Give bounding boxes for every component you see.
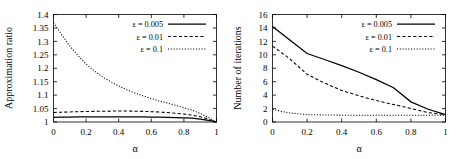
x-tick-labels: 00.20.40.60.81 — [270, 127, 448, 137]
y-tick-label: 1.1 — [37, 90, 48, 100]
data-curves — [54, 23, 217, 122]
y-tick-label: 1.3 — [37, 37, 49, 47]
chart-panel-approximation-ratio: Approximation ratio 11.051.11.151.21.251… — [0, 0, 229, 159]
legend-label-1: ε = 0.005 — [361, 20, 392, 29]
x-tick-labels: 00.20.40.60.81 — [51, 127, 219, 137]
x-tick-label: 0 — [51, 127, 56, 137]
approximation-ratio-svg: Approximation ratio 11.051.11.151.21.251… — [0, 0, 229, 159]
legend: ε = 0.005ε = 0.01ε = 0.1 — [361, 20, 435, 54]
x-tick-label: 0.2 — [80, 127, 91, 137]
y-axis-label: Number of iterations — [232, 26, 243, 109]
x-tick-label: 1 — [214, 127, 219, 137]
x-tick-label: 1 — [443, 127, 448, 137]
number-of-iterations-svg: Number of iterations 0246810121416 00.20… — [229, 0, 458, 159]
y-tick-label: 16 — [259, 10, 269, 20]
y-tick-label: 1.4 — [37, 10, 49, 20]
series-line-3 — [54, 23, 217, 122]
y-tick-label: 1.35 — [33, 23, 49, 33]
y-tick-label: 12 — [259, 37, 268, 47]
data-curves — [273, 27, 446, 116]
legend-label-2: ε = 0.01 — [366, 33, 392, 42]
plot-frame — [54, 15, 217, 123]
y-axis-label-group: Approximation ratio — [3, 27, 14, 109]
y-tick-label: 6 — [263, 77, 268, 87]
series-line-1 — [54, 117, 217, 122]
legend-label-2: ε = 0.01 — [137, 33, 163, 42]
x-tick-label: 0.6 — [371, 127, 383, 137]
y-tick-label: 1.05 — [33, 104, 49, 114]
y-tick-label: 0 — [263, 117, 268, 127]
y-tick-label: 1.25 — [33, 50, 49, 60]
x-tick-label: 0.8 — [405, 127, 417, 137]
y-axis-label-group: Number of iterations — [232, 26, 243, 109]
legend-label-3: ε = 0.1 — [141, 45, 163, 54]
y-tick-label: 1.15 — [33, 77, 49, 87]
y-tick-label: 10 — [259, 50, 269, 60]
legend-label-3: ε = 0.1 — [370, 45, 392, 54]
x-axis-label: α — [356, 143, 362, 154]
x-tick-label: 0.8 — [178, 127, 190, 137]
figure-container: Approximation ratio 11.051.11.151.21.251… — [0, 0, 458, 159]
x-tick-label: 0.4 — [113, 127, 125, 137]
x-tick-label: 0.4 — [336, 127, 348, 137]
x-tick-label: 0 — [270, 127, 275, 137]
legend: ε = 0.005ε = 0.01ε = 0.1 — [132, 20, 206, 54]
legend-label-1: ε = 0.005 — [132, 20, 163, 29]
y-tick-label: 8 — [263, 63, 268, 73]
series-line-1 — [273, 27, 446, 115]
tick-marks — [54, 15, 217, 123]
x-tick-label: 0.2 — [301, 127, 312, 137]
y-tick-label: 2 — [263, 104, 268, 114]
x-tick-label: 0.6 — [146, 127, 158, 137]
chart-panel-number-of-iterations: Number of iterations 0246810121416 00.20… — [229, 0, 458, 159]
y-tick-label: 4 — [263, 90, 268, 100]
y-tick-label: 1.2 — [37, 63, 48, 73]
x-axis-label: α — [132, 143, 138, 154]
y-tick-label: 14 — [259, 23, 269, 33]
y-tick-labels: 0246810121416 — [259, 10, 269, 128]
y-axis-label: Approximation ratio — [3, 27, 14, 109]
series-line-2 — [273, 46, 446, 115]
y-tick-labels: 11.051.11.151.21.251.31.351.4 — [33, 10, 49, 128]
y-tick-label: 1 — [44, 117, 49, 127]
